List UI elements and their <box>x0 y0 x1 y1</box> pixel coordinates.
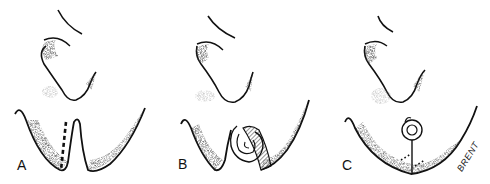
surgical-illustration-figure: A <box>0 0 490 184</box>
panel-label-c: C <box>342 158 352 172</box>
panel-label-a: A <box>17 158 26 172</box>
helix-arc <box>58 10 82 34</box>
panel-c: C BRENT <box>325 0 490 184</box>
panel-label-b: B <box>178 157 187 171</box>
panel-b: B <box>165 0 330 184</box>
closed-spiral <box>402 120 422 140</box>
panel-b-drawing <box>165 0 330 184</box>
panel-a: A <box>0 0 165 184</box>
